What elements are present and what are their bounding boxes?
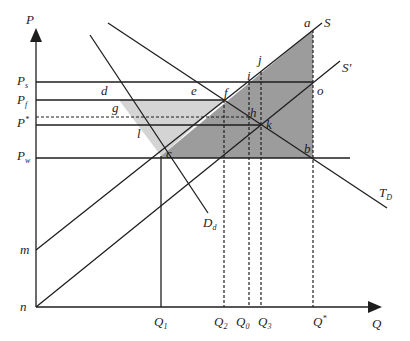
qstar-label: Q*: [313, 314, 326, 329]
point-l: l: [137, 126, 141, 141]
point-j: j: [256, 52, 262, 67]
point-f: f: [224, 85, 230, 100]
point-c: c: [166, 146, 172, 161]
x-axis-label: Q: [372, 316, 382, 331]
point-d: d: [101, 83, 108, 98]
economics-diagram: P Q n Ps Pf P* Pw m Q1 Q2 Q0 Q3 Q* S S' …: [0, 0, 410, 341]
m-label: m: [20, 242, 29, 257]
q0-label: Q0: [236, 314, 249, 331]
x-axis-arrow-icon: [368, 301, 382, 313]
q3-label: Q3: [258, 314, 271, 331]
s-curve-label: S: [324, 15, 331, 30]
point-o: o: [317, 83, 324, 98]
q2-label: Q2: [214, 314, 227, 331]
ps-label: Ps: [16, 73, 28, 90]
y-axis-label: P: [25, 12, 34, 27]
point-b: b: [304, 141, 311, 156]
point-h: h: [250, 105, 257, 120]
point-i: i: [247, 68, 251, 83]
pf-label: Pf: [16, 92, 29, 109]
y-axis-arrow-icon: [30, 28, 42, 42]
s-prime-curve-label: S': [342, 60, 352, 75]
point-e: e: [191, 83, 197, 98]
dark-shaded-region: [161, 30, 313, 158]
pw-label: Pw: [16, 148, 31, 165]
origin-label: n: [20, 299, 27, 314]
dd-curve-label: Dd: [202, 215, 217, 232]
point-a: a: [304, 15, 311, 30]
point-g: g: [112, 100, 119, 115]
q1-label: Q1: [154, 314, 167, 331]
td-curve-label: TD: [379, 185, 392, 202]
pstar-label: P*: [16, 115, 29, 130]
point-k: k: [266, 117, 272, 132]
